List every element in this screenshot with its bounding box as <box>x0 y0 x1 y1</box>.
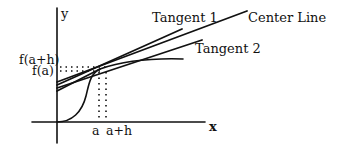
tangent-diagram: y x f(a+h) f(a) a a+h Tangent 1 Center L… <box>0 0 337 155</box>
function-curve <box>57 59 183 122</box>
y-label-f-a: f(a) <box>32 63 54 78</box>
x-axis-label: x <box>209 119 217 134</box>
center-line-label: Center Line <box>248 10 326 25</box>
y-axis-label: y <box>60 6 69 21</box>
tangent-1-line <box>57 29 182 85</box>
tangent-1-label: Tangent 1 <box>152 10 218 25</box>
x-label-a-plus-h: a+h <box>106 123 132 138</box>
tangent-2-label: Tangent 2 <box>195 41 261 56</box>
x-label-a: a <box>92 123 100 138</box>
